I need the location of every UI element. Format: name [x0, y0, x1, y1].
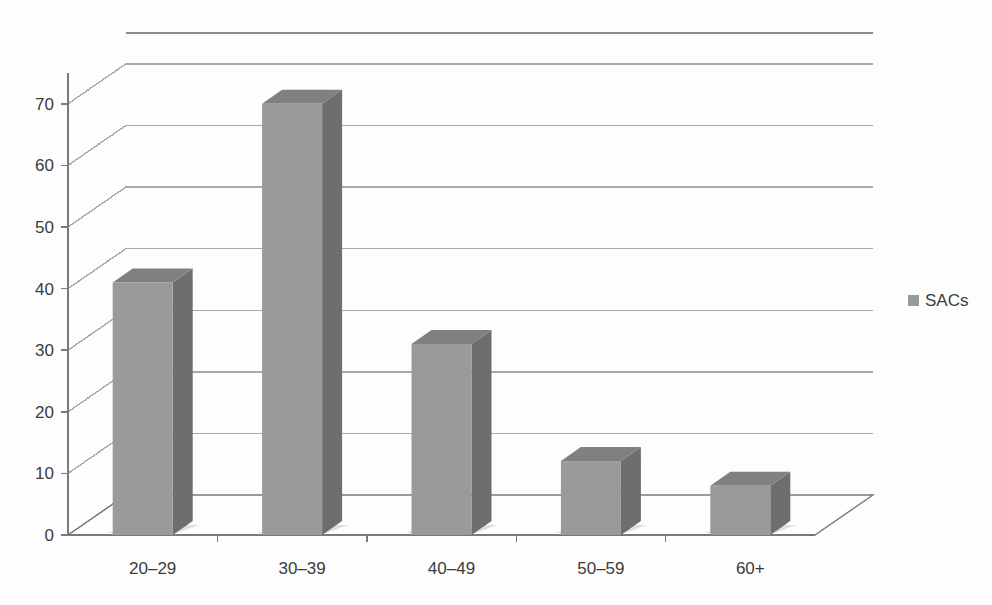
bar-column[interactable] [704, 472, 796, 535]
y-axis-tick-label: 20 [35, 403, 54, 422]
x-axis-category-label: 40–49 [428, 559, 475, 578]
bar-column[interactable] [555, 447, 647, 535]
y-axis-tick-label: 40 [35, 280, 54, 299]
bar-side-face [621, 447, 641, 535]
bar-front-face[interactable] [412, 344, 472, 535]
bar-column[interactable] [256, 90, 348, 535]
x-axis-category-label: 60+ [736, 559, 765, 578]
legend: SACs [908, 291, 968, 310]
gridline-connector [68, 64, 126, 104]
bar-side-face [173, 268, 193, 535]
bar-side-face [472, 330, 492, 535]
bar-front-face[interactable] [710, 486, 770, 535]
legend-label: SACs [925, 291, 968, 310]
y-axis-tick-label: 60 [35, 156, 54, 175]
gridline-connector [68, 187, 126, 227]
bar-front-face[interactable] [262, 104, 322, 535]
x-axis-category-label: 30–39 [278, 559, 325, 578]
chart-canvas: 010203040506070 20–2930–3940–4950–5960+ … [0, 0, 992, 605]
y-axis-tick-label: 50 [35, 218, 54, 237]
y-axis-tick-labels: 010203040506070 [35, 95, 54, 545]
legend-swatch [908, 295, 919, 306]
bar-group [107, 90, 797, 535]
y-axis-tick-label: 30 [35, 341, 54, 360]
x-axis-category-label: 20–29 [129, 559, 176, 578]
bar-column[interactable] [406, 330, 498, 535]
y-axis-tick-label: 0 [45, 526, 54, 545]
bar-front-face[interactable] [561, 461, 621, 535]
bar-side-face [322, 90, 342, 535]
y-axis-tick-label: 10 [35, 464, 54, 483]
x-axis-category-label: 50–59 [577, 559, 624, 578]
bar-front-face[interactable] [113, 282, 173, 535]
bar-chart-figure: 010203040506070 20–2930–3940–4950–5960+ … [0, 0, 992, 605]
x-axis-category-labels: 20–2930–3940–4950–5960+ [129, 559, 765, 578]
gridline-connector [68, 125, 126, 165]
bar-column[interactable] [107, 268, 199, 535]
y-axis-tick-label: 70 [35, 95, 54, 114]
